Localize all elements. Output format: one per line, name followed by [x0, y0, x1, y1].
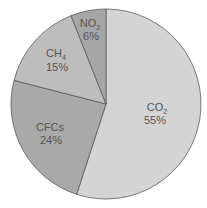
pie-chart: CO2 55% CFCs 24% CH4 15% NO2 6%	[0, 0, 207, 208]
label-no2-pct: 6%	[83, 30, 99, 42]
label-cfcs: CFCs	[36, 121, 65, 133]
label-ch4-pct: 15%	[46, 61, 68, 73]
label-cfcs-pct: 24%	[40, 134, 62, 146]
label-co2-pct: 55%	[144, 114, 166, 126]
